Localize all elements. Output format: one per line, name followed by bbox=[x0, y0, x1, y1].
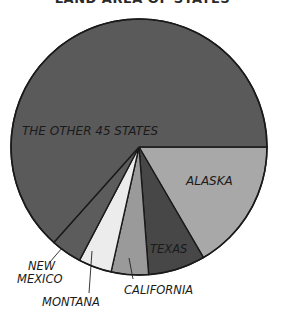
pie-slices bbox=[11, 19, 267, 275]
pie-chart: THE OTHER 45 STATES ALASKA TEXAS NEW MEX… bbox=[0, 0, 285, 318]
label-texas: TEXAS bbox=[150, 242, 187, 256]
label-alaska: ALASKA bbox=[185, 174, 233, 188]
label-california: CALIFORNIA bbox=[124, 283, 193, 297]
label-new-mexico-line1: NEW bbox=[28, 259, 56, 273]
label-new-mexico-line2: MEXICO bbox=[17, 272, 63, 286]
label-other-45-states: THE OTHER 45 STATES bbox=[22, 124, 158, 138]
label-montana: MONTANA bbox=[42, 295, 100, 309]
